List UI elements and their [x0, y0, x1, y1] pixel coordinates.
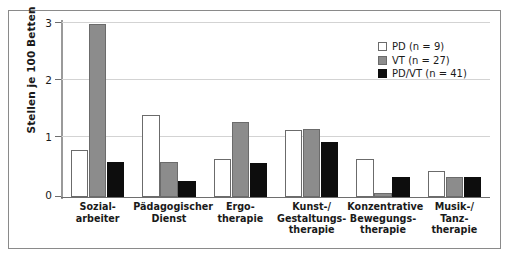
- x-category-label: Pädagogischer Dienst: [133, 201, 204, 224]
- bar-vt: [232, 122, 250, 197]
- bar-pd: [285, 130, 303, 197]
- bar-pdvt: [464, 177, 482, 197]
- x-category-label: Kunst-/ Gestaltungs- therapie: [276, 201, 347, 236]
- bar-pdvt: [321, 142, 339, 197]
- y-tick-label-0: 0: [30, 189, 52, 201]
- bar-pd: [428, 171, 446, 197]
- legend-item-pd: PD (n = 9): [378, 40, 490, 54]
- bar-vt: [303, 129, 321, 197]
- chart-legend: PD (n = 9) VT (n = 27) PD/VT (n = 41): [378, 40, 490, 81]
- bar-group: [285, 22, 339, 197]
- bar-group: [142, 22, 196, 197]
- bar-pd: [142, 115, 160, 197]
- bar-vt: [160, 162, 178, 197]
- y-axis-tick-labels: 3 2 1 0: [26, 0, 52, 267]
- bar-pdvt: [250, 163, 268, 197]
- legend-label-pd: PD (n = 9): [392, 41, 444, 52]
- x-category-label: Ergo- therapie: [205, 201, 276, 224]
- legend-label-pdvt: PD/VT (n = 41): [392, 68, 467, 79]
- bar-pdvt: [178, 181, 196, 197]
- x-category-label: Konzentrative Bewegungs- therapie: [347, 201, 418, 236]
- y-tick-label-3: 3: [30, 17, 52, 29]
- bar-group: [71, 22, 125, 197]
- legend-swatch-pd-icon: [378, 42, 387, 51]
- bar-vt: [446, 177, 464, 197]
- bar-pd: [71, 150, 89, 197]
- legend-label-vt: VT (n = 27): [392, 55, 450, 66]
- bar-vt: [374, 193, 392, 197]
- gridline-1: [62, 136, 490, 137]
- x-axis-category-labels: Sozial- arbeiterPädagogischer DienstErgo…: [62, 201, 490, 261]
- bar-pdvt: [392, 177, 410, 197]
- x-category-label: Musik-/ Tanz- therapie: [419, 201, 490, 236]
- gridline-3: [62, 22, 490, 23]
- y-tick-label-1: 1: [30, 131, 52, 143]
- bar-pd: [214, 159, 232, 197]
- legend-item-vt: VT (n = 27): [378, 54, 490, 68]
- chart-figure: Stellen je 100 Betten 3 2 1 0 Sozial- ar…: [0, 0, 509, 267]
- legend-item-pdvt: PD/VT (n = 41): [378, 67, 490, 81]
- legend-swatch-pdvt-icon: [378, 69, 387, 78]
- bar-pd: [356, 159, 374, 197]
- bar-vt: [89, 24, 107, 197]
- y-tick-label-2: 2: [30, 74, 52, 86]
- bar-pdvt: [107, 162, 125, 197]
- legend-swatch-vt-icon: [378, 56, 387, 65]
- x-category-label: Sozial- arbeiter: [62, 201, 133, 224]
- bar-group: [214, 22, 268, 197]
